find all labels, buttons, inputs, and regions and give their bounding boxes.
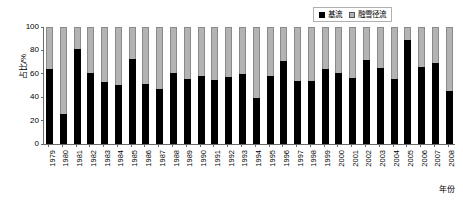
bar-column[interactable] [225, 27, 232, 144]
x-axis-tick: 1979 [45, 146, 52, 188]
bar-column[interactable] [308, 27, 315, 144]
x-axis-tick-mark [62, 144, 63, 147]
x-axis-tick: 1990 [197, 146, 204, 188]
x-axis-tick-label: 1979 [49, 150, 57, 167]
x-axis-tick-label: 1982 [90, 150, 98, 167]
y-axis-tick: 60 [30, 70, 44, 78]
bar-segment-base-flow [294, 81, 301, 144]
bar-column[interactable] [184, 27, 191, 144]
bar-segment-base-flow [198, 76, 205, 144]
bar-segment-snowmelt-runoff [377, 27, 384, 68]
bar-column[interactable] [129, 27, 136, 144]
bar-segment-snowmelt-runoff [129, 27, 136, 59]
bar-segment-snowmelt-runoff [46, 27, 53, 69]
bar-segment-base-flow [184, 79, 191, 144]
chart-figure: 基流 融雪径流 占比/% 020406080100 19791980198119… [0, 0, 463, 201]
bar-column[interactable] [418, 27, 425, 144]
bar-column[interactable] [377, 27, 384, 144]
x-axis-tick-mark [200, 144, 201, 147]
x-axis-tick-label: 1995 [269, 150, 277, 167]
bar-column[interactable] [391, 27, 398, 144]
x-axis-title: 年份 [439, 185, 455, 194]
bar-column[interactable] [335, 27, 342, 144]
x-axis-tick-label: 1989 [186, 150, 194, 167]
y-axis-tick: 40 [30, 93, 44, 101]
x-axis-tick-label: 2001 [352, 150, 360, 167]
x-axis-tick-mark [103, 144, 104, 147]
bar-column[interactable] [267, 27, 274, 144]
bar-column[interactable] [211, 27, 218, 144]
x-axis-tick: 1981 [73, 146, 80, 188]
legend-entry-base-flow: 基流 [319, 10, 342, 19]
x-axis-tick-mark [117, 144, 118, 147]
bar-column[interactable] [87, 27, 94, 144]
x-axis-tick-mark [448, 144, 449, 147]
bar-column[interactable] [363, 27, 370, 144]
bar-segment-base-flow [101, 82, 108, 144]
x-axis-tick-label: 1986 [145, 150, 153, 167]
bar-column[interactable] [294, 27, 301, 144]
x-axis-tick-label: 1991 [214, 150, 222, 167]
bar-segment-base-flow [267, 76, 274, 144]
bar-column[interactable] [446, 27, 453, 144]
x-axis-tick-mark [48, 144, 49, 147]
bar-column[interactable] [253, 27, 260, 144]
x-axis-tick-mark [351, 144, 352, 147]
bar-segment-base-flow [391, 79, 398, 144]
bar-column[interactable] [101, 27, 108, 144]
bar-segment-base-flow [87, 73, 94, 144]
bar-column[interactable] [280, 27, 287, 144]
bar-segment-snowmelt-runoff [391, 27, 398, 79]
x-axis-tick: 1985 [128, 146, 135, 188]
bar-segment-snowmelt-runoff [170, 27, 177, 73]
y-axis-tick: 20 [30, 117, 44, 125]
bar-segment-snowmelt-runoff [184, 27, 191, 79]
x-axis-tick-label: 1999 [324, 150, 332, 167]
x-axis-tick-label: 2005 [407, 150, 415, 167]
x-axis-tick-mark [310, 144, 311, 147]
bar-segment-snowmelt-runoff [280, 27, 287, 61]
bar-column[interactable] [60, 27, 67, 144]
y-axis-title: 占比/% [19, 43, 28, 91]
bar-segment-base-flow [156, 89, 163, 144]
x-axis-tick: 1984 [114, 146, 121, 188]
bar-segment-base-flow [432, 63, 439, 144]
x-axis-tick: 1997 [293, 146, 300, 188]
bar-column[interactable] [239, 27, 246, 144]
bar-column[interactable] [46, 27, 53, 144]
bar-segment-base-flow [142, 84, 149, 144]
bar-segment-base-flow [211, 80, 218, 144]
bar-segment-snowmelt-runoff [335, 27, 342, 73]
bar-segment-snowmelt-runoff [446, 27, 453, 91]
bar-column[interactable] [349, 27, 356, 144]
x-axis-tick-mark [393, 144, 394, 147]
bar-series-container [44, 27, 455, 144]
bar-column[interactable] [74, 27, 81, 144]
x-axis-tick: 1983 [100, 146, 107, 188]
x-axis-tick-label: 2003 [379, 150, 387, 167]
bar-column[interactable] [198, 27, 205, 144]
y-axis-tick-label: 20 [30, 117, 39, 125]
bar-segment-snowmelt-runoff [101, 27, 108, 82]
bar-segment-snowmelt-runoff [115, 27, 122, 85]
bar-column[interactable] [432, 27, 439, 144]
x-axis-tick-mark [296, 144, 297, 147]
x-axis-tick: 1995 [266, 146, 273, 188]
bar-column[interactable] [156, 27, 163, 144]
bar-segment-snowmelt-runoff [142, 27, 149, 84]
x-axis-tick-label: 1994 [255, 150, 263, 167]
legend-swatch-snowmelt-runoff [349, 12, 355, 18]
bar-segment-snowmelt-runoff [239, 27, 246, 74]
bar-column[interactable] [115, 27, 122, 144]
legend-label-base-flow: 基流 [328, 10, 342, 19]
bar-segment-base-flow [129, 59, 136, 144]
bar-column[interactable] [170, 27, 177, 144]
bar-segment-base-flow [377, 68, 384, 144]
bar-segment-base-flow [170, 73, 177, 144]
x-axis-tick: 2000 [334, 146, 341, 188]
x-axis-tick-label: 1997 [297, 150, 305, 167]
bar-column[interactable] [322, 27, 329, 144]
bar-column[interactable] [404, 27, 411, 144]
bar-column[interactable] [142, 27, 149, 144]
x-axis-tick-label: 1992 [228, 150, 236, 167]
